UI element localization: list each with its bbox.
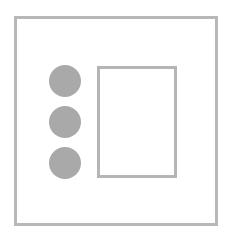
content-rectangle (97, 66, 177, 178)
circle-2 (49, 106, 81, 138)
circle-1 (49, 65, 81, 97)
circle-3 (49, 147, 81, 179)
